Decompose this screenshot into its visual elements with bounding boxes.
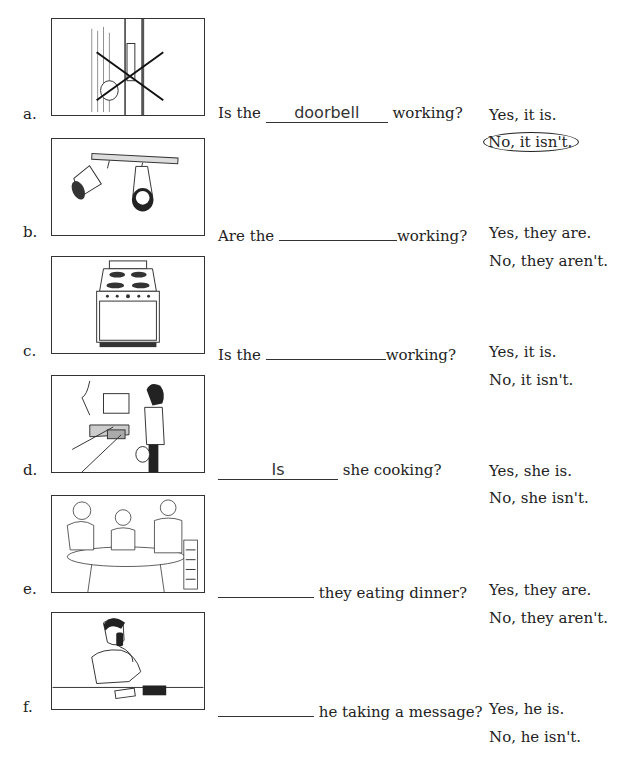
item-letter: f. [23,698,33,716]
item-letter: e. [23,580,37,598]
answer-no-f[interactable]: No, he isn't. [489,728,581,746]
answer-blank[interactable] [266,342,386,360]
answer-blank[interactable]: doorbell [266,105,388,123]
question-suffix: he taking a message? [319,703,483,721]
answer-blank[interactable] [279,223,397,241]
question-prefix: Is the [218,104,261,122]
question-c: Is the working? [218,342,456,364]
family-dinner-illustration [51,495,205,593]
question-b: Are the working? [218,223,467,245]
man-on-phone-icon [52,613,204,709]
stove-illustration [51,256,205,354]
answer-blank[interactable] [218,580,314,598]
man-on-phone-illustration [51,612,205,710]
doorbell-icon [52,19,204,115]
item-letter: a. [23,105,37,123]
answer-blank[interactable] [218,699,314,717]
answer-blank[interactable]: Is [218,462,338,480]
answer-yes-b[interactable]: Yes, they are. [489,224,591,242]
woman-cooking-icon [52,376,204,472]
answer-no-d[interactable]: No, she isn't. [489,489,589,507]
question-f: he taking a message? [218,699,483,721]
answer-no-c[interactable]: No, it isn't. [489,371,573,389]
question-e: they eating dinner? [218,580,467,602]
answer-yes-c[interactable]: Yes, it is. [489,343,557,361]
question-d: Is she cooking? [218,461,441,480]
answer-yes-e[interactable]: Yes, they are. [489,581,591,599]
stove-icon [52,257,204,353]
question-a: Is the doorbell working? [218,104,463,123]
item-letter: d. [23,461,37,479]
answer-no-b[interactable]: No, they aren't. [489,252,608,270]
item-letter: b. [23,223,37,241]
question-suffix: she cooking? [343,461,442,479]
doorbell-crossed-out-illustration [51,18,205,116]
answer-yes-a[interactable]: Yes, it is. [489,106,557,124]
question-suffix: they eating dinner? [319,584,467,602]
item-letter: c. [23,342,36,360]
answer-yes-f[interactable]: Yes, he is. [489,700,564,718]
answer-no-e[interactable]: No, they aren't. [489,609,608,627]
circled-answer: No, it isn't. [483,132,579,152]
question-suffix: working? [393,104,463,122]
question-suffix: working? [397,227,467,245]
answer-no-a-circled[interactable]: No, it isn't. [489,133,579,151]
question-suffix: working? [386,346,456,364]
question-prefix: Are the [218,227,274,245]
track-lights-icon [52,139,204,235]
track-lights-illustration [51,138,205,236]
family-dinner-icon [52,496,204,592]
woman-cooking-illustration [51,375,205,473]
answer-yes-d[interactable]: Yes, she is. [489,462,572,480]
question-prefix: Is the [218,346,261,364]
